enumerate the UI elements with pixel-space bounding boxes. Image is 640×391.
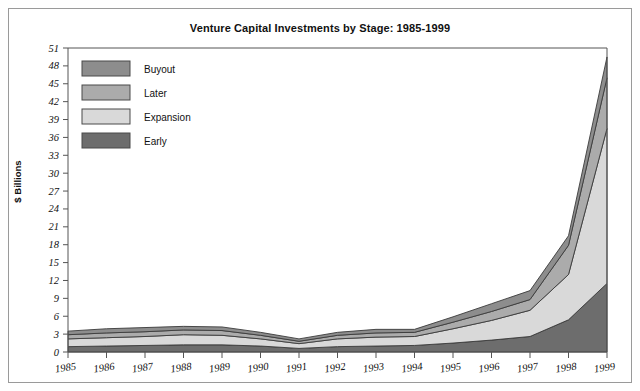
chart-legend: BuyoutLaterExpansionEarly — [82, 61, 191, 148]
y-tick-label: 27 — [49, 186, 60, 197]
y-tick-label: 42 — [49, 96, 60, 107]
x-tick-label: 1990 — [247, 361, 270, 375]
area-series-expansion — [68, 128, 607, 348]
y-tick-label: 45 — [49, 78, 60, 89]
y-tick-label: 15 — [49, 257, 60, 268]
x-tick-label: 1999 — [593, 361, 616, 375]
x-axis-ticks: 1985198619871988198919901991199219931994… — [54, 352, 616, 374]
x-tick-label: 1991 — [285, 361, 307, 375]
y-tick-label: 36 — [48, 132, 60, 143]
x-tick-label: 1996 — [478, 361, 501, 375]
legend-label-expansion: Expansion — [144, 112, 191, 123]
x-tick-label: 1988 — [170, 361, 193, 375]
y-tick-label: 33 — [48, 150, 60, 161]
y-tick-label: 9 — [54, 293, 60, 304]
x-tick-label: 1987 — [131, 361, 154, 375]
legend-swatch-early — [82, 133, 130, 148]
x-tick-label: 1994 — [401, 361, 424, 375]
x-tick-label: 1986 — [93, 361, 116, 375]
y-tick-label: 39 — [48, 114, 60, 125]
y-tick-label: 48 — [49, 60, 60, 71]
legend-swatch-buyout — [82, 61, 130, 76]
chart-figure: Venture Capital Investments by Stage: 19… — [0, 0, 640, 391]
x-tick-label: 1995 — [439, 361, 461, 375]
legend-label-buyout: Buyout — [144, 64, 175, 75]
y-tick-label: 18 — [49, 239, 60, 250]
y-axis-ticks: 03691215182124273033363942454851 — [48, 43, 69, 358]
legend-swatch-later — [82, 85, 130, 100]
stacked-area-plot: 03691215182124273033363942454851 1985198… — [0, 0, 640, 391]
area-series-group — [68, 57, 607, 352]
x-tick-label: 1985 — [54, 361, 76, 375]
area-series-buyout — [68, 57, 607, 341]
x-tick-label: 1989 — [208, 361, 231, 375]
x-tick-label: 1998 — [555, 361, 578, 375]
legend-label-later: Later — [144, 88, 167, 99]
x-tick-label: 1992 — [324, 361, 347, 375]
y-tick-label: 6 — [54, 311, 60, 322]
y-tick-label: 24 — [49, 203, 60, 214]
y-tick-label: 3 — [53, 329, 59, 340]
y-tick-label: 30 — [48, 168, 60, 179]
y-tick-label: 12 — [49, 275, 60, 286]
y-tick-label: 51 — [49, 43, 60, 54]
legend-label-early: Early — [144, 136, 167, 147]
x-tick-label: 1993 — [362, 361, 384, 375]
y-tick-label: 21 — [49, 221, 60, 232]
y-tick-label: 0 — [54, 347, 60, 358]
legend-swatch-expansion — [82, 109, 130, 124]
x-tick-label: 1997 — [516, 361, 539, 375]
